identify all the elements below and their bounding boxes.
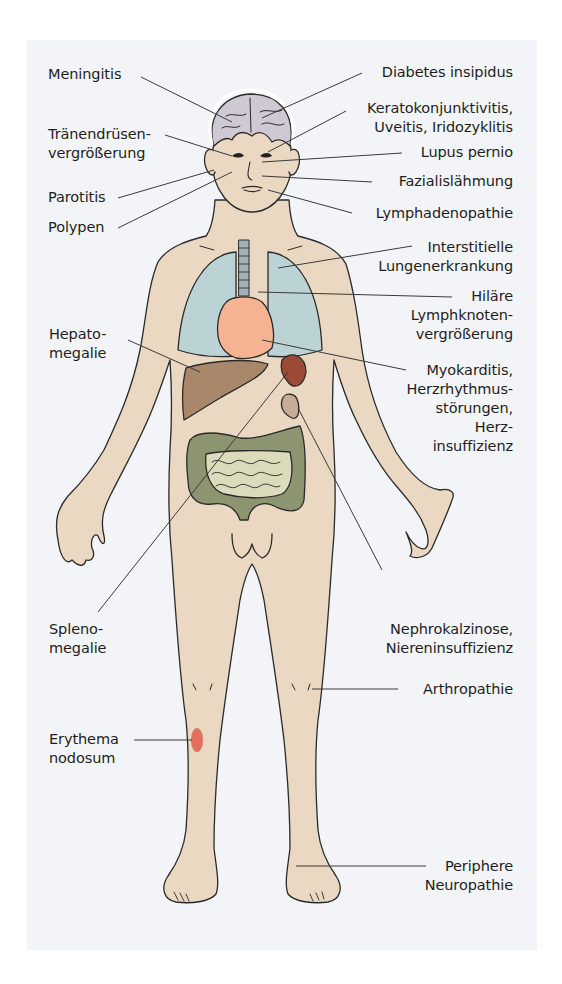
label-nephrokalzinose: Nephrokalzinose, Niereninsuffizienz: [386, 620, 513, 658]
label-lupus-pernio: Lupus pernio: [421, 143, 513, 162]
label-parotitis: Parotitis: [48, 188, 106, 207]
label-splenomegalie: Spleno- megalie: [49, 620, 106, 658]
label-keratokonjunktivitis: Keratokonjunktivitis, Uveitis, Iridozykl…: [367, 99, 513, 137]
label-polypen: Polypen: [48, 218, 104, 237]
label-traenendruesen: Tränendrüsen- vergrößerung: [48, 125, 151, 163]
label-diabetes-insipidus: Diabetes insipidus: [382, 63, 513, 82]
heart: [218, 297, 274, 359]
label-hilaere-lymphknotenvergroesserung: Hiläre Lymphknoten- vergrößerung: [411, 287, 513, 344]
label-periphere-neuropathie: Periphere Neuropathie: [425, 857, 513, 895]
label-meningitis: Meningitis: [48, 65, 121, 84]
label-lymphadenopathie: Lymphadenopathie: [376, 204, 513, 223]
small-intestine: [206, 451, 292, 498]
label-erythema-nodosum: Erythema nodosum: [49, 730, 119, 768]
label-myokarditis: Myokarditis, Herzrhythmus- störungen, He…: [406, 361, 513, 456]
label-interstitielle-lungenerkrankung: Interstitielle Lungenerkrankung: [378, 238, 513, 276]
label-arthropathie: Arthropathie: [423, 680, 513, 699]
label-fazialislaehmung: Fazialislähmung: [399, 172, 513, 191]
label-hepatomegalie: Hepato- megalie: [49, 325, 106, 363]
erythema-nodosum-lesion: [191, 728, 203, 752]
